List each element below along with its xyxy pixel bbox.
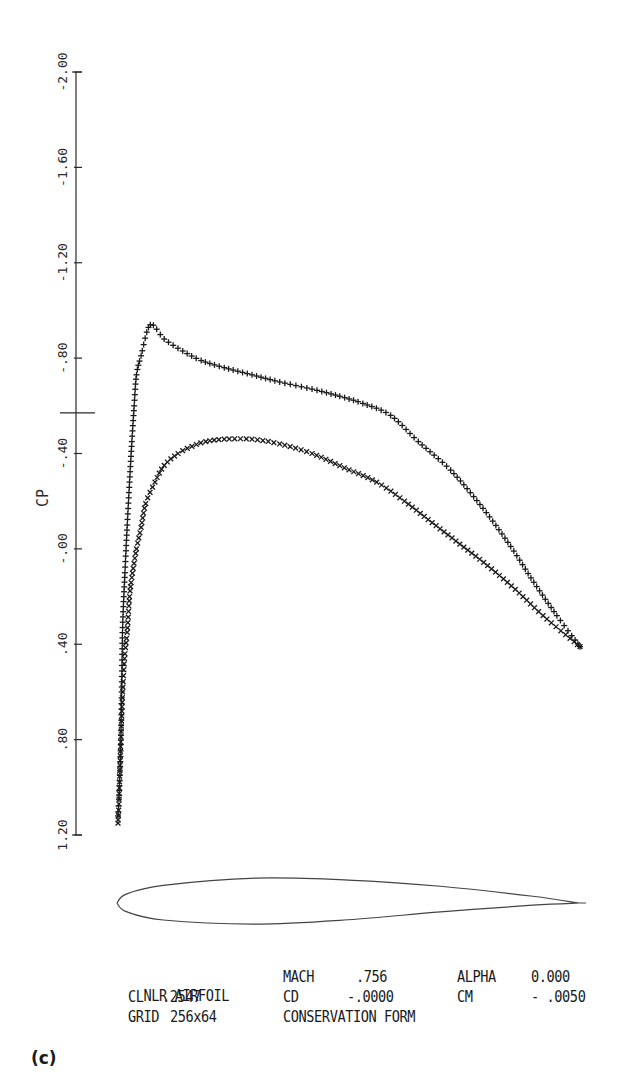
y-tick-label: -1.60 [55, 148, 70, 187]
upper-surface-series [115, 322, 583, 819]
alpha-label: ALPHA [457, 968, 496, 987]
figure-label: (c) [31, 1048, 57, 1068]
airfoil-outline [117, 878, 586, 924]
cp-distribution-chart: -2.00-1.60-1.20-.80-.40-.00.40.801.20 CP [0, 0, 624, 1082]
y-tick-label: .40 [55, 633, 70, 656]
y-tick-label: -.80 [55, 342, 70, 373]
cd-label: CD [283, 988, 299, 1007]
grid-label: GRID [128, 1008, 159, 1027]
lower-surface-series [116, 436, 583, 825]
alpha-value: 0.000 [531, 968, 570, 987]
y-tick-label: .80 [55, 728, 70, 751]
mach-value: .756 [356, 968, 387, 987]
cd-value: -.0000 [347, 988, 394, 1007]
y-tick-label: -1.20 [55, 243, 70, 282]
y-tick-label: -.00 [55, 533, 70, 564]
cl-value: .2547 [162, 988, 201, 1007]
y-tick-label: -2.00 [55, 52, 70, 91]
formulation: CONSERVATION FORM [283, 1008, 415, 1027]
cm-label: CM [457, 988, 473, 1007]
y-tick-label: 1.20 [55, 819, 70, 850]
grid-value: 256x64 [170, 1008, 217, 1027]
y-tick-labels: -2.00-1.60-1.20-.80-.40-.00.40.801.20 [55, 52, 70, 850]
y-axis-title: CP [34, 489, 52, 507]
y-tick-label: -.40 [55, 438, 70, 469]
cl-label: CL [128, 988, 144, 1007]
cm-value: - .0050 [531, 988, 585, 1007]
mach-label: MACH [283, 968, 314, 987]
